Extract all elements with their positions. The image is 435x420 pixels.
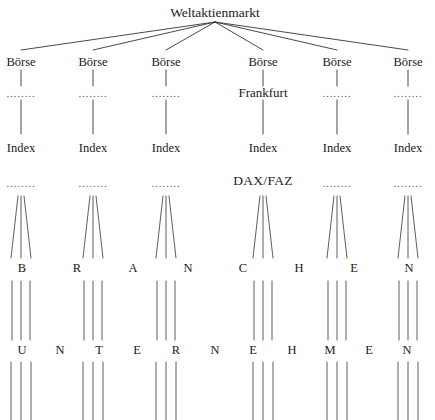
branchen-letter-8: N	[404, 262, 413, 275]
fan-edge-6	[215, 22, 408, 50]
boerse-detail-dots-5: ........	[322, 88, 351, 99]
boerse-label-1: Börse	[6, 56, 35, 69]
index-detail-dax-faz: DAX/FAZ	[233, 174, 293, 188]
index-label-2: Index	[79, 142, 107, 155]
branchen-letter-5: C	[239, 262, 247, 275]
boerse-detail-frankfurt: Frankfurt	[238, 86, 287, 99]
boerse-detail-dots-6: ........	[393, 88, 422, 99]
branch-stroke-6-1	[398, 196, 405, 258]
branchen-letter-1: B	[18, 262, 26, 275]
branch-stroke-6-3	[411, 196, 418, 258]
index-detail-dots-2: ........	[78, 178, 107, 189]
unternehmen-letter-6: N	[210, 344, 219, 357]
branchen-letter-3: A	[128, 262, 137, 275]
unternehmen-letter-4: E	[133, 344, 141, 357]
fan-edge-3	[166, 22, 215, 50]
branchen-letter-6: H	[294, 262, 303, 275]
branch-stroke-3-1	[156, 196, 163, 258]
unternehmen-letter-11: N	[402, 344, 411, 357]
branchen-letter-4: N	[183, 262, 192, 275]
fan-edge-1	[21, 22, 215, 50]
boerse-detail-dots-3: ........	[151, 88, 180, 99]
branchen-letter-7: E	[350, 262, 358, 275]
unternehmen-letter-9: M	[324, 344, 335, 357]
unternehmen-letter-2: N	[55, 344, 64, 357]
unternehmen-letter-3: T	[95, 344, 103, 357]
unternehmen-letter-1: U	[17, 344, 26, 357]
fan-edge-5	[215, 22, 337, 50]
unternehmen-letter-7: E	[249, 344, 257, 357]
unternehmen-letter-8: H	[287, 344, 296, 357]
root-title-weltaktienmarkt: Weltaktienmarkt	[170, 6, 260, 20]
boerse-detail-dots-1: ........	[6, 88, 35, 99]
index-label-5: Index	[323, 142, 351, 155]
unternehmen-letter-10: E	[365, 344, 373, 357]
branch-stroke-2-3	[96, 196, 103, 258]
boerse-label-6: Börse	[393, 56, 422, 69]
branch-stroke-1-3	[24, 196, 31, 258]
boerse-label-3: Börse	[151, 56, 180, 69]
diagram-canvas: Weltaktienmarkt Börse Börse Börse Börse …	[0, 0, 435, 420]
branch-stroke-4-3	[266, 196, 273, 258]
index-detail-dots-1: ........	[6, 178, 35, 189]
branch-stroke-2-1	[83, 196, 90, 258]
diagram-vector-layer	[0, 0, 435, 420]
branchen-letter-2: R	[73, 262, 81, 275]
branch-stroke-5-1	[327, 196, 334, 258]
index-detail-dots-5: ........	[322, 178, 351, 189]
index-label-3: Index	[152, 142, 180, 155]
branch-stroke-1-1	[11, 196, 18, 258]
index-detail-dots-6: ........	[393, 178, 422, 189]
index-label-4: Index	[249, 142, 277, 155]
boerse-label-2: Börse	[78, 56, 107, 69]
index-detail-dots-3: ........	[151, 178, 180, 189]
index-label-1: Index	[7, 142, 35, 155]
branch-stroke-5-3	[340, 196, 347, 258]
branch-stroke-3-3	[169, 196, 176, 258]
fan-edge-2	[93, 22, 215, 50]
fan-edge-4	[215, 22, 263, 50]
unternehmen-letter-5: R	[172, 344, 180, 357]
index-label-6: Index	[394, 142, 422, 155]
boerse-detail-dots-2: ........	[78, 88, 107, 99]
branch-stroke-4-1	[253, 196, 260, 258]
boerse-label-5: Börse	[322, 56, 351, 69]
boerse-label-4: Börse	[248, 56, 277, 69]
